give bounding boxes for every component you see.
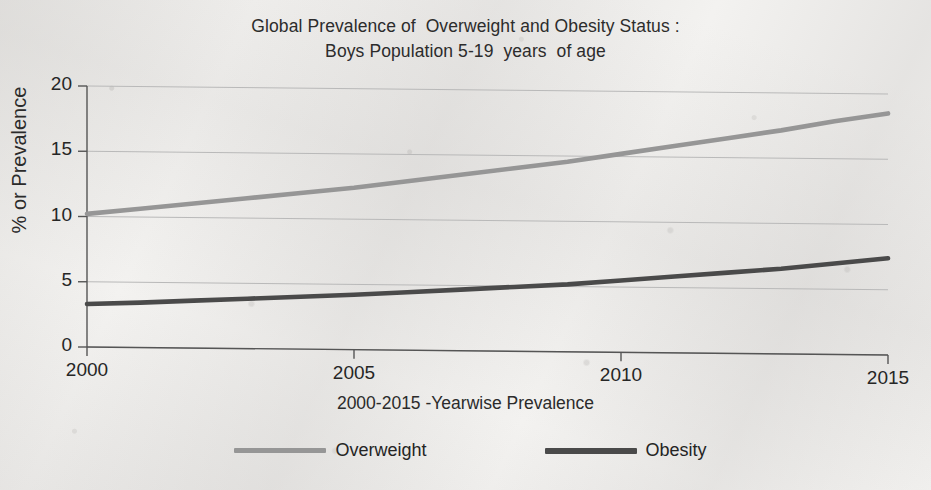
legend-swatch-obesity — [545, 448, 637, 454]
legend-entry-overweight: Overweight — [234, 440, 426, 461]
y-tick-label: 0 — [61, 334, 72, 356]
x-tick-label: 2015 — [858, 367, 918, 389]
series-line-overweight — [87, 113, 888, 213]
x-tick-label: 2000 — [57, 359, 117, 381]
legend-swatch-overweight — [234, 448, 326, 453]
gridlines-group — [87, 86, 888, 355]
x-axis-title: 2000-2015 -Yearwise Prevalence — [0, 393, 931, 414]
plot-area-wrapper — [0, 0, 931, 490]
chart-figure: Global Prevalence of Overweight and Obes… — [0, 0, 931, 490]
legend-label-obesity: Obesity — [646, 440, 707, 461]
x-tick-label: 2005 — [324, 362, 384, 384]
x-axis-line — [87, 347, 888, 355]
y-tick-label: 20 — [51, 73, 72, 95]
chart-svg — [0, 0, 931, 490]
x-tick-label: 2010 — [591, 364, 651, 386]
y-tick-label: 5 — [61, 269, 72, 291]
series-line-obesity — [87, 258, 888, 304]
y-tick-label: 15 — [51, 138, 72, 160]
gridline — [87, 86, 888, 94]
legend-entry-obesity: Obesity — [545, 440, 707, 461]
data-series-group — [87, 113, 888, 304]
tick-marks-group — [78, 86, 888, 364]
chart-legend: Overweight Obesity — [0, 440, 931, 461]
gridline — [87, 217, 888, 225]
y-axis-title: % or Prevalence — [8, 60, 31, 260]
legend-label-overweight: Overweight — [335, 440, 426, 461]
gridline — [87, 151, 888, 159]
y-tick-label: 10 — [51, 204, 72, 226]
